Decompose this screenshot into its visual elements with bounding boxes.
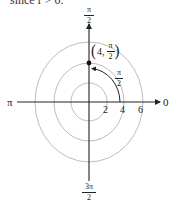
angle-label-top-num: π (87, 6, 91, 14)
radial-tick-2: 2 (103, 105, 108, 115)
angle-label-top-den: 2 (87, 17, 91, 25)
polar-grid (0, 0, 177, 202)
radial-tick-4: 4 (120, 105, 125, 115)
point-theta-den: 2 (109, 53, 113, 61)
angle-marker-label: π 2 (115, 69, 123, 88)
angle-label-bottom: 3π 2 (82, 183, 96, 202)
angle-label-bottom-den: 2 (87, 194, 91, 202)
angle-label-right: 0 (163, 97, 169, 108)
close-paren: ) (115, 43, 120, 60)
point-label-theta: π 2 (107, 42, 115, 61)
radial-tick-6: 6 (138, 105, 143, 115)
angle-label-top: π 2 (84, 6, 94, 25)
point-label: ( 4, π 2 ) (91, 42, 120, 61)
point-theta-num: π (108, 42, 112, 50)
angle-marker-den: 2 (117, 80, 121, 88)
angle-label-left: π (7, 97, 13, 108)
point-dot (87, 61, 92, 66)
point-label-r: 4, (97, 46, 105, 57)
angle-label-bottom-num: 3π (85, 183, 93, 191)
open-paren: ( (91, 43, 96, 60)
angle-marker-num: π (117, 69, 121, 77)
